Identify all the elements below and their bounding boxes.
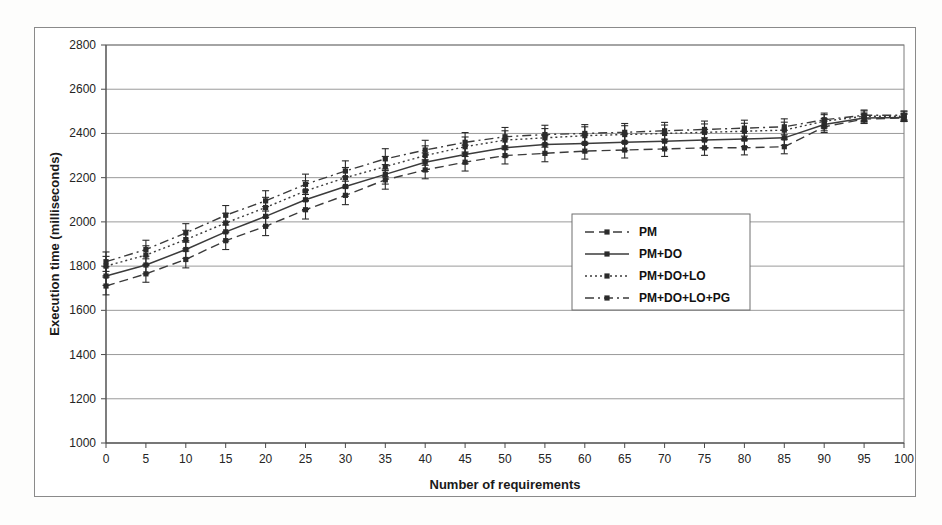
legend-entry-label[interactable]: PM+DO+LO <box>639 269 706 283</box>
x-tick-label: 25 <box>299 452 313 466</box>
data-point-marker <box>542 132 547 137</box>
data-point-marker <box>582 131 587 136</box>
x-tick-label: 85 <box>778 452 792 466</box>
data-point-marker <box>303 182 308 187</box>
figure-root: 1000120014001600180020002200240026002800… <box>0 0 942 525</box>
data-point-marker <box>103 259 108 264</box>
legend-swatch-marker <box>604 273 609 278</box>
data-point-marker <box>343 168 348 173</box>
y-tick-label: 1800 <box>69 259 96 273</box>
data-point-marker <box>263 198 268 203</box>
data-point-marker <box>143 247 148 252</box>
x-tick-label: 30 <box>339 452 353 466</box>
data-point-marker <box>901 113 906 118</box>
data-point-marker <box>223 213 228 218</box>
line-chart: 1000120014001600180020002200240026002800… <box>35 28 915 496</box>
data-point-marker <box>183 230 188 235</box>
x-tick-label: 50 <box>498 452 512 466</box>
data-point-marker <box>463 140 468 145</box>
data-point-marker <box>782 124 787 129</box>
x-tick-label: 0 <box>103 452 110 466</box>
legend-entry-label[interactable]: PM+DO+LO+PG <box>639 291 730 305</box>
data-point-marker <box>622 130 627 135</box>
y-tick-label: 2200 <box>69 171 96 185</box>
x-tick-label: 10 <box>179 452 193 466</box>
x-tick-label: 100 <box>894 452 914 466</box>
axis-titles-group: Number of requirementsExecution time (mi… <box>47 152 580 492</box>
data-point-marker <box>822 117 827 122</box>
data-point-marker <box>742 126 747 131</box>
legend-swatch-marker <box>604 229 609 234</box>
x-tick-label: 65 <box>618 452 632 466</box>
tick-labels-group: 1000120014001600180020002200240026002800… <box>69 38 914 466</box>
data-point-marker <box>862 113 867 118</box>
y-tick-label: 1200 <box>69 392 96 406</box>
y-tick-label: 1000 <box>69 436 96 450</box>
x-tick-label: 55 <box>538 452 552 466</box>
data-point-marker <box>662 128 667 133</box>
legend-entry-label[interactable]: PM+DO <box>639 247 682 261</box>
x-tick-label: 35 <box>379 452 393 466</box>
y-tick-label: 2000 <box>69 215 96 229</box>
x-axis-title: Number of requirements <box>430 477 581 492</box>
y-tick-label: 1400 <box>69 348 96 362</box>
figure-outer-frame: 1000120014001600180020002200240026002800… <box>34 27 916 497</box>
legend-swatch-marker <box>604 295 609 300</box>
y-tick-label: 2800 <box>69 38 96 52</box>
y-tick-label: 2600 <box>69 82 96 96</box>
data-point-marker <box>423 147 428 152</box>
axes-group <box>101 45 904 448</box>
chart-legend[interactable]: PMPM+DOPM+DO+LOPM+DO+LO+PG <box>572 214 750 310</box>
legend-entry-label[interactable]: PM <box>639 225 657 239</box>
series-pm-do-lo-pg <box>103 110 908 271</box>
x-tick-label: 90 <box>818 452 832 466</box>
x-tick-label: 40 <box>419 452 433 466</box>
x-tick-label: 75 <box>698 452 712 466</box>
y-axis-title: Execution time (milliseconds) <box>47 152 62 336</box>
y-tick-label: 1600 <box>69 303 96 317</box>
data-point-marker <box>383 156 388 161</box>
x-tick-label: 20 <box>259 452 273 466</box>
data-point-marker <box>702 127 707 132</box>
x-tick-label: 45 <box>458 452 472 466</box>
y-tick-label: 2400 <box>69 126 96 140</box>
legend-swatch-marker <box>604 251 609 256</box>
x-tick-label: 15 <box>219 452 233 466</box>
x-tick-label: 80 <box>738 452 752 466</box>
x-tick-label: 60 <box>578 452 592 466</box>
x-tick-label: 95 <box>857 452 871 466</box>
x-tick-label: 70 <box>658 452 672 466</box>
data-point-marker <box>502 134 507 139</box>
series-group <box>103 110 908 295</box>
x-tick-label: 5 <box>143 452 150 466</box>
